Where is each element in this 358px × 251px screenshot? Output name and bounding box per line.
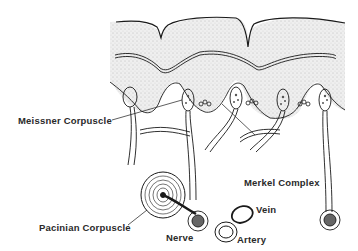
label-pacinian-corpuscle: Pacinian Corpuscle (39, 222, 131, 233)
pacinian-corpuscle (141, 172, 196, 218)
artery (215, 222, 237, 242)
label-meissner-corpuscle: Meissner Corpuscle (18, 115, 112, 126)
vein (232, 206, 253, 223)
label-merkel-complex: Merkel Complex (244, 177, 320, 188)
label-vein: Vein (256, 204, 276, 215)
label-artery: Artery (237, 234, 266, 245)
label-nerve: Nerve (166, 232, 193, 243)
